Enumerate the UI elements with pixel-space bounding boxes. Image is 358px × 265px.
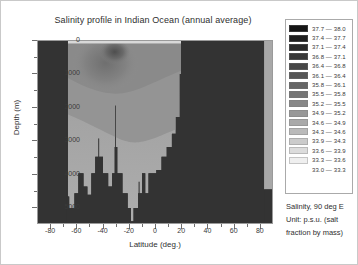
x-tick-label: -20: [115, 227, 143, 234]
caption-line: fraction by mass): [286, 226, 358, 239]
y-tick-mark: [32, 107, 37, 108]
salinity-heatmap: [38, 41, 272, 223]
legend-label: 37.4 — 37.7: [312, 35, 346, 41]
legend-row: 34.6 — 34.9: [289, 118, 346, 127]
legend-label: 34.3 — 34.6: [312, 129, 346, 135]
legend-label: 35.2 — 35.5: [312, 101, 346, 107]
y-tick-mark: [32, 73, 37, 74]
legend-row: 37.7 — 38.0: [289, 24, 346, 33]
legend-label: 33.9 — 34.3: [312, 138, 346, 144]
legend-label: 34.9 — 35.2: [312, 110, 346, 116]
x-tick-minor: [247, 224, 248, 227]
legend-swatch: [289, 119, 308, 126]
y-axis-title: Depth (m): [12, 83, 21, 153]
legend-label: 36.1 — 36.4: [312, 73, 346, 79]
legend-label: 33.6 — 33.9: [312, 148, 346, 154]
legend-label: 35.5 — 35.8: [312, 91, 346, 97]
legend-label: 34.6 — 34.9: [312, 120, 346, 126]
x-axis-title: Latitude (deg.): [37, 240, 273, 249]
x-tick-label: 40: [193, 227, 221, 234]
y-tick-minor: [34, 157, 37, 158]
y-tick-label: 5000: [40, 203, 80, 210]
plot-area: [37, 40, 273, 224]
legend-swatch: [289, 166, 308, 173]
legend-swatch: [289, 138, 308, 145]
legend-label: 37.1 — 37.4: [312, 44, 346, 50]
x-tick-minor: [221, 224, 222, 227]
legend-swatch: [289, 44, 308, 51]
x-tick-minor: [89, 224, 90, 227]
legend-label: 36.4 — 36.8: [312, 63, 346, 69]
y-tick-minor: [34, 57, 37, 58]
legend-label: 35.8 — 36.1: [312, 82, 346, 88]
x-tick-minor: [142, 224, 143, 227]
legend-row: 34.9 — 35.2: [289, 109, 346, 118]
legend-row: 33.9 — 34.3: [289, 137, 346, 146]
legend-row: 35.5 — 35.8: [289, 90, 346, 99]
legend-row: 37.1 — 37.4: [289, 43, 346, 52]
legend-swatch: [289, 100, 308, 107]
legend-swatch: [289, 91, 308, 98]
legend-row: 36.1 — 36.4: [289, 71, 346, 80]
legend-swatch: [289, 110, 308, 117]
caption-line: Unit: p.s.u. (salt: [286, 213, 358, 226]
x-tick-minor: [194, 224, 195, 227]
legend-row: 36.8 — 37.1: [289, 52, 346, 61]
legend-swatch: [289, 63, 308, 70]
right-shelf-cap: [264, 189, 272, 223]
y-tick-label: 3000: [40, 136, 80, 143]
legend-swatch: [289, 25, 308, 32]
legend-swatch: [289, 157, 308, 164]
x-tick-minor: [116, 224, 117, 227]
legend-row: 35.8 — 36.1: [289, 80, 346, 89]
legend-row: 37.4 — 37.7: [289, 33, 346, 42]
legend-swatch: [289, 128, 308, 135]
y-tick-label: 2000: [40, 103, 80, 110]
legend-row: 33.6 — 33.9: [289, 146, 346, 155]
y-tick-mark: [32, 207, 37, 208]
y-tick-mark: [32, 40, 37, 41]
x-tick-label: -60: [62, 227, 90, 234]
legend-swatch: [289, 35, 308, 42]
legend-label: 33.3 — 33.6: [312, 157, 346, 163]
legend-row: 33.0 — 33.3: [289, 165, 346, 174]
legend-label: 36.8 — 37.1: [312, 54, 346, 60]
legend-row: 34.3 — 34.6: [289, 127, 346, 136]
right-shelf-strip: [264, 41, 272, 189]
y-tick-mark: [32, 174, 37, 175]
y-tick-label: 4000: [40, 170, 80, 177]
x-tick-label: 60: [220, 227, 248, 234]
legend-swatch: [289, 147, 308, 154]
y-tick-minor: [34, 90, 37, 91]
x-tick-label: 80: [246, 227, 274, 234]
page-title: Salinity profile in Indian Ocean (annual…: [19, 15, 287, 25]
chart-page: Salinity profile in Indian Ocean (annual…: [0, 0, 358, 265]
legend-label: 37.7 — 38.0: [312, 26, 346, 32]
x-tick-minor: [168, 224, 169, 227]
legend-caption: Salinity, 90 deg EUnit: p.s.u. (saltfrac…: [286, 200, 358, 239]
y-tick-label: 0: [40, 36, 80, 43]
x-tick-label: -40: [89, 227, 117, 234]
legend-row: 35.2 — 35.5: [289, 99, 346, 108]
x-tick-minor: [63, 224, 64, 227]
y-tick-minor: [34, 124, 37, 125]
x-tick-label: 20: [167, 227, 195, 234]
color-legend: 37.7 — 38.037.4 — 37.737.1 — 37.436.8 — …: [285, 19, 353, 194]
legend-swatch: [289, 72, 308, 79]
legend-label: 33.0 — 33.3: [312, 167, 346, 173]
legend-swatch: [289, 82, 308, 89]
x-tick-label: -80: [36, 227, 64, 234]
y-tick-label: 1000: [40, 69, 80, 76]
legend-swatch: [289, 53, 308, 60]
legend-list: 37.7 — 38.037.4 — 37.737.1 — 37.436.8 — …: [289, 24, 346, 174]
y-tick-mark: [32, 140, 37, 141]
caption-line: Salinity, 90 deg E: [286, 200, 358, 213]
x-tick-label: 0: [141, 227, 169, 234]
y-tick-minor: [34, 191, 37, 192]
legend-row: 33.3 — 33.6: [289, 155, 346, 164]
legend-row: 36.4 — 36.8: [289, 62, 346, 71]
